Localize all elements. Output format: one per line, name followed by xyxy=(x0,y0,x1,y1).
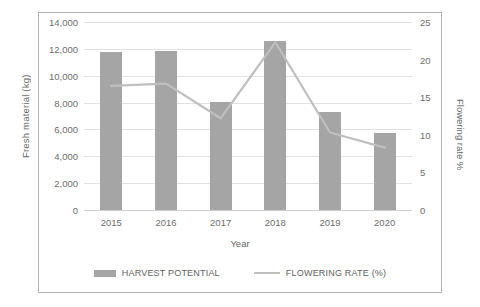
legend-label-flowering-rate: FLOWERING RATE (%) xyxy=(286,268,386,278)
y-axis-right-tick-label: 25 xyxy=(420,17,431,28)
bar-swatch-icon xyxy=(94,270,116,277)
line-series-flowering-rate xyxy=(84,22,412,210)
y-axis-right-tick-label: 0 xyxy=(420,205,425,216)
y-axis-left-tick-label: 6,000 xyxy=(54,124,78,135)
y-axis-right-tick-label: 15 xyxy=(420,92,431,103)
gridline xyxy=(84,210,412,211)
x-axis-tick-label-2018: 2018 xyxy=(265,217,286,228)
y-axis-left-title: Fresh material (kg) xyxy=(17,26,33,206)
y-axis-left-tick-label: 4,000 xyxy=(54,151,78,162)
y-axis-left-tick-label: 2,000 xyxy=(54,178,78,189)
x-axis-title: Year xyxy=(0,238,480,249)
plot-area: 02,0004,0006,0008,00010,00012,00014,000 … xyxy=(84,22,412,210)
legend-label-harvest-potential: HARVEST POTENTIAL xyxy=(122,268,220,278)
y-axis-right-title: Flowering rate % xyxy=(452,60,468,210)
y-axis-right-tick-label: 20 xyxy=(420,54,431,65)
line-swatch-icon xyxy=(254,272,280,275)
y-axis-left-tick-label: 10,000 xyxy=(49,70,78,81)
x-axis-tick-label-2015: 2015 xyxy=(101,217,122,228)
y-axis-right-tick-label: 10 xyxy=(420,129,431,140)
y-axis-left-tick-label: 0 xyxy=(73,205,78,216)
chart-legend: HARVEST POTENTIAL FLOWERING RATE (%) xyxy=(0,268,480,278)
y-axis-left-tick-label: 12,000 xyxy=(49,43,78,54)
legend-item-flowering-rate: FLOWERING RATE (%) xyxy=(254,268,386,278)
x-axis-tick-label-2017: 2017 xyxy=(210,217,231,228)
x-axis-tick-label-2016: 2016 xyxy=(155,217,176,228)
y-axis-left-tick-label: 14,000 xyxy=(49,17,78,28)
y-axis-right-tick-label: 5 xyxy=(420,167,425,178)
legend-item-harvest-potential: HARVEST POTENTIAL xyxy=(94,268,220,278)
x-axis-tick-label-2019: 2019 xyxy=(319,217,340,228)
y-axis-left-tick-label: 8,000 xyxy=(54,97,78,108)
x-axis-tick-label-2020: 2020 xyxy=(374,217,395,228)
flowering-rate-line xyxy=(111,42,384,147)
